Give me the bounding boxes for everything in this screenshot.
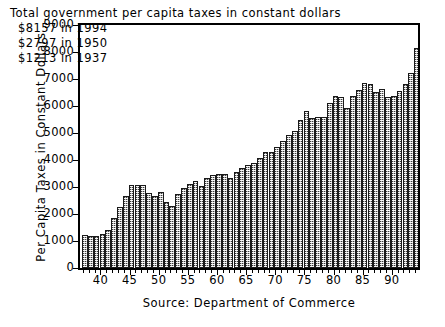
annotation-line-1937: $1213 in 1937 xyxy=(18,51,330,66)
x-tick-mark-minor xyxy=(83,270,84,273)
x-tick-mark-minor xyxy=(112,270,113,273)
x-tick-mark-minor xyxy=(409,270,410,273)
x-tick-mark-minor xyxy=(287,270,288,273)
x-tick-mark-minor xyxy=(380,270,381,273)
x-tick-mark-minor xyxy=(234,270,235,273)
y-tick-label: 2000 xyxy=(34,208,74,219)
chart-annotation: Total government per capita taxes in con… xyxy=(10,6,330,66)
x-tick-label: 90 xyxy=(372,274,412,287)
x-tick-mark-minor xyxy=(293,270,294,273)
y-tick-label: 1000 xyxy=(34,235,74,246)
x-tick-mark-minor xyxy=(147,270,148,273)
x-tick-mark-minor xyxy=(415,270,416,273)
annotation-headline: Total government per capita taxes in con… xyxy=(10,6,330,21)
x-tick-mark-minor xyxy=(351,270,352,273)
x-tick-mark-minor xyxy=(141,270,142,273)
y-tick-label: 4000 xyxy=(34,154,74,165)
x-tick-mark-minor xyxy=(199,270,200,273)
source-caption: Source: Department of Commerce xyxy=(78,296,420,310)
x-tick-mark-minor xyxy=(316,270,317,273)
x-tick-mark-minor xyxy=(176,270,177,273)
y-tick-label: 0 xyxy=(34,262,74,273)
x-tick-mark-minor xyxy=(89,270,90,273)
y-tick-label: 6000 xyxy=(34,100,74,111)
x-tick-mark-minor xyxy=(264,270,265,273)
x-tick-mark-minor xyxy=(322,270,323,273)
chart-figure: Per Capita Taxes in Constant Dollars 900… xyxy=(0,0,445,327)
x-tick-mark-minor xyxy=(170,270,171,273)
y-tick-label: 3000 xyxy=(34,181,74,192)
annotation-line-1950: $2797 in 1950 xyxy=(18,36,330,51)
x-tick-mark-minor xyxy=(205,270,206,273)
x-tick-mark-minor xyxy=(258,270,259,273)
x-tick-mark-minor xyxy=(374,270,375,273)
x-tick-mark-minor xyxy=(403,270,404,273)
y-tick-label: 5000 xyxy=(34,127,74,138)
y-tick-label: 7000 xyxy=(34,73,74,84)
annotation-line-1994: $8157 in 1994 xyxy=(18,21,330,36)
x-tick-mark-minor xyxy=(118,270,119,273)
x-tick-mark-minor xyxy=(229,270,230,273)
x-tick-mark-minor xyxy=(345,270,346,273)
x-axis-tick-labels: 4045505560657075808590 xyxy=(78,274,420,290)
